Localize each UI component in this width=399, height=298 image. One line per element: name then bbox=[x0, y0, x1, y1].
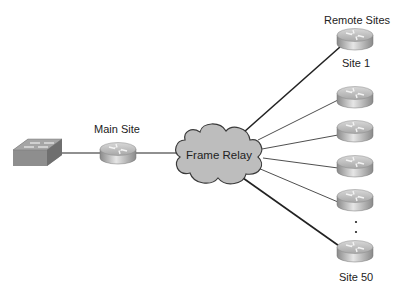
router-icon-site1 bbox=[337, 29, 373, 51]
link-cloud-site3 bbox=[262, 135, 338, 149]
link-cloud-site2 bbox=[258, 100, 338, 140]
router-icon-site5 bbox=[337, 190, 373, 212]
site-1-label: Site 1 bbox=[342, 58, 370, 69]
router-icon-site3 bbox=[337, 121, 373, 143]
router-icon-site50 bbox=[337, 241, 373, 263]
main-site-label: Main Site bbox=[94, 124, 140, 135]
link-cloud-site50 bbox=[243, 178, 342, 248]
link-cloud-site1 bbox=[244, 47, 340, 132]
router-icon-site2 bbox=[337, 87, 373, 109]
router-icon-main bbox=[100, 143, 136, 165]
ellipsis-dots bbox=[355, 221, 357, 233]
cloud-label: Frame Relay bbox=[186, 150, 252, 162]
remote-sites-label: Remote Sites bbox=[324, 15, 390, 26]
router-icon-site4 bbox=[337, 156, 373, 178]
switch-icon bbox=[13, 139, 62, 166]
link-cloud-site4 bbox=[263, 158, 338, 168]
site-50-label: Site 50 bbox=[339, 272, 373, 283]
